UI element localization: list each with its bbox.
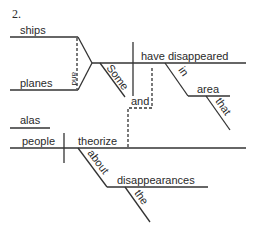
word-about: about: [85, 147, 111, 176]
word-alas: alas: [20, 114, 41, 126]
word-in: in: [176, 64, 191, 78]
clause-conjunction-line: [128, 68, 152, 148]
word-area: area: [197, 83, 220, 95]
fork-upper: [78, 37, 92, 63]
word-theorize: theorize: [78, 135, 117, 147]
word-and-clauses: and: [131, 95, 149, 107]
word-ships: ships: [20, 24, 46, 36]
word-and-subjects: and: [70, 72, 79, 85]
word-planes: planes: [20, 77, 53, 89]
diagram-number: 2.: [12, 7, 21, 21]
word-the: the: [132, 187, 151, 206]
word-have-disappeared: have disappeared: [141, 50, 228, 62]
word-disappearances: disappearances: [117, 174, 195, 186]
sentence-diagram: 2. ships planes and Some have disappeare…: [0, 0, 256, 235]
fork-lower: [78, 63, 92, 90]
word-people: people: [22, 135, 55, 147]
word-that: that: [213, 95, 233, 117]
